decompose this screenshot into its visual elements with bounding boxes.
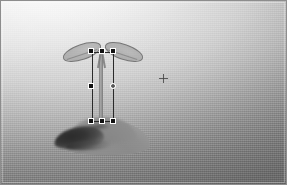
handle-bottom-center[interactable]	[99, 118, 105, 124]
render-viewport[interactable]	[0, 0, 287, 185]
handle-top-center[interactable]	[99, 48, 105, 54]
handle-bottom-left[interactable]	[88, 118, 94, 124]
handle-middle-left[interactable]	[88, 83, 94, 89]
handle-bottom-right[interactable]	[110, 118, 116, 124]
handle-top-right[interactable]	[110, 48, 116, 54]
selection-bounding-box[interactable]	[92, 52, 114, 122]
film-grain-overlay	[0, 0, 287, 185]
handle-top-left[interactable]	[88, 48, 94, 54]
